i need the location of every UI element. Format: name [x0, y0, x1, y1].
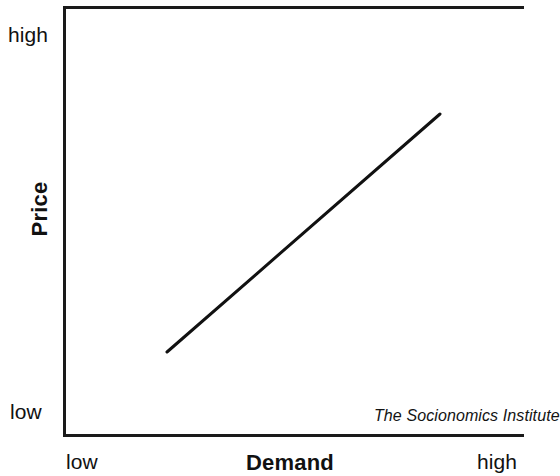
y-axis-tick-low: low [10, 401, 42, 422]
demand-price-line [167, 114, 440, 352]
y-axis-tick-high: high [8, 24, 48, 45]
x-axis-tick-high: high [477, 451, 517, 472]
y-axis-title: Price [27, 167, 53, 251]
attribution-text: The Socionomics Institute [374, 407, 560, 425]
x-axis-tick-low: low [66, 451, 98, 472]
x-axis-title: Demand [224, 450, 356, 476]
